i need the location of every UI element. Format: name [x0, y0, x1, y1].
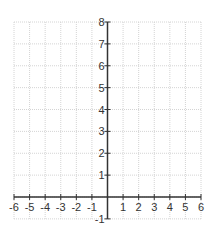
x-tick-label: 1 — [120, 201, 126, 213]
x-tick-labels: -6-5-4-3-2-1123456 — [9, 201, 204, 213]
y-tick-label: -1 — [95, 213, 105, 225]
x-tick-label: 6 — [198, 201, 204, 213]
y-tick-label: 6 — [98, 60, 104, 72]
x-tick-label: 4 — [167, 201, 173, 213]
y-tick-label: 3 — [98, 125, 104, 137]
y-tick-label: 7 — [98, 38, 104, 50]
y-tick-label: 5 — [98, 82, 104, 94]
x-tick-label: -3 — [56, 201, 66, 213]
x-tick-label: 2 — [136, 201, 142, 213]
axes — [14, 22, 201, 219]
coordinate-plane: -6-5-4-3-2-1123456 -112345678 — [0, 0, 216, 230]
y-tick-label: 2 — [98, 147, 104, 159]
x-tick-label: 5 — [182, 201, 188, 213]
y-tick-label: 8 — [98, 16, 104, 28]
x-tick-label: 3 — [151, 201, 157, 213]
x-tick-label: -2 — [71, 201, 81, 213]
x-tick-label: -6 — [9, 201, 19, 213]
x-tick-label: -1 — [87, 201, 97, 213]
y-tick-label: 4 — [98, 104, 104, 116]
y-tick-labels: -112345678 — [95, 16, 105, 225]
y-tick-label: 1 — [98, 169, 104, 181]
x-tick-label: -5 — [25, 201, 35, 213]
x-tick-label: -4 — [40, 201, 50, 213]
